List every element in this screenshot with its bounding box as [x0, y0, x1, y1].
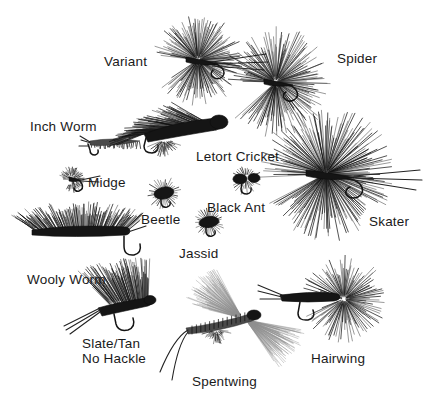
- fly-illustration-hairwing: [258, 255, 398, 351]
- fly-label-hairwing: Hairwing: [311, 351, 365, 366]
- fly-label-skater: Skater: [369, 214, 409, 229]
- fly-illustration-variant: [152, 10, 272, 115]
- fly-illustration-slate-tan-no-hackle: [62, 246, 182, 342]
- fly-label-slate-tan-no-hackle: Slate/Tan No Hackle: [82, 336, 146, 366]
- fly-label-letort-cricket: Letort Cricket: [196, 149, 279, 164]
- fly-label-black-ant: Black Ant: [207, 200, 265, 215]
- fly-illustration-black-ant: [228, 166, 270, 196]
- fly-label-beetle: Beetle: [141, 212, 180, 227]
- fly-chart-illustration: VariantSpiderInch WormLetort CricketMidg…: [0, 0, 429, 413]
- fly-label-midge: Midge: [88, 175, 126, 190]
- fly-illustration-spider: [248, 14, 358, 124]
- fly-illustration-inch-worm: [78, 130, 150, 160]
- fly-label-jassid: Jassid: [179, 246, 218, 261]
- fly-illustration-spentwing: [156, 252, 316, 382]
- fly-illustration-beetle: [144, 178, 186, 210]
- fly-label-variant: Variant: [104, 54, 147, 69]
- fly-label-spider: Spider: [337, 51, 377, 66]
- fly-label-inch-worm: Inch Worm: [30, 119, 97, 134]
- fly-illustration-wooly-worm: [24, 196, 150, 268]
- fly-label-spentwing: Spentwing: [192, 374, 257, 389]
- fly-label-wooly-worm: Wooly Worm: [27, 272, 106, 287]
